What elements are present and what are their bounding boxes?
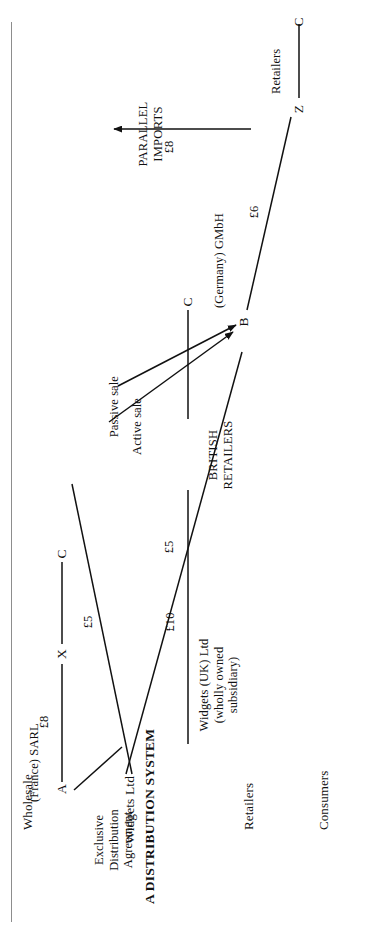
- annotation-exclusive-agreement: Exclusive Distribution Agreement: [92, 780, 136, 900]
- node-consumer-c: C: [291, 17, 307, 26]
- node-consumer-a: C: [54, 549, 70, 558]
- price-uk-to-british-retailers: £10: [163, 612, 178, 631]
- node-widgets-uk-ltd: Widgets (UK) Ltd (wholly owned subsidiar…: [197, 570, 241, 800]
- annotation-parallel-imports: PARALLEL IMPORTS: [136, 59, 165, 209]
- node-b-company: (Germany) GMbH: [212, 213, 227, 308]
- node-british-retailers: BRITISH RETAILERS: [206, 370, 235, 540]
- line-widgets-to-a: [72, 484, 132, 774]
- node-consumer-b: C: [180, 297, 196, 306]
- rotated-figure-frame: A DISTRIBUTION SYSTEM Wholesale Retailer…: [14, 22, 374, 922]
- annotation-passive-sale: Passive sale: [107, 376, 122, 437]
- node-z: Z: [291, 105, 307, 113]
- node-b: B: [236, 317, 252, 326]
- tier-label-consumers: Consumers: [316, 771, 331, 830]
- figure-title: A DISTRIBUTION SYSTEM: [142, 729, 158, 904]
- page-margin-rule: [11, 22, 12, 922]
- distribution-system-figure: A DISTRIBUTION SYSTEM Wholesale Retailer…: [14, 22, 374, 922]
- price-widgets-to-a: £5: [81, 616, 96, 629]
- price-b-to-z: £6: [247, 206, 262, 219]
- node-z-company: Retailers: [269, 49, 284, 94]
- price-z-to-british-retailers: £8: [162, 141, 177, 154]
- node-a: A: [54, 784, 70, 794]
- tier-label-retailers: Retailers: [241, 783, 256, 830]
- page-canvas: A DISTRIBUTION SYSTEM Wholesale Retailer…: [0, 0, 388, 944]
- annotation-active-sale: Active sale: [130, 398, 145, 455]
- node-a-company: (France) SARL: [27, 723, 42, 802]
- price-widgets-to-b: £5: [162, 541, 177, 554]
- node-x: X: [54, 649, 70, 659]
- price-a-to-x: £8: [37, 716, 52, 729]
